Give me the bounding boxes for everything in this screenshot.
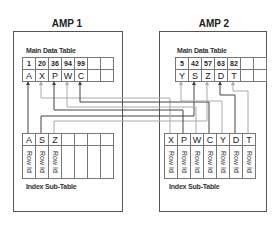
connector-lines — [0, 0, 280, 228]
